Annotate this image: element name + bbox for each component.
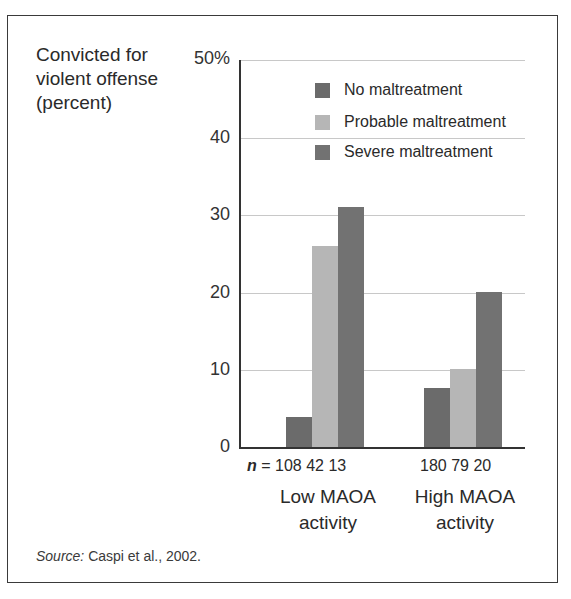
legend-swatch bbox=[315, 83, 330, 98]
legend-item-no-maltreatment: No maltreatment bbox=[315, 81, 462, 99]
bar-low-no-maltreatment bbox=[286, 417, 312, 448]
gridline-30 bbox=[240, 215, 525, 216]
sample-size-low: n = 108 42 13 bbox=[247, 457, 346, 475]
y-axis-label-line: Convicted for bbox=[36, 43, 186, 67]
y-tick-20: 20 bbox=[170, 282, 230, 303]
y-axis bbox=[239, 60, 241, 448]
n-values-low: 108 42 13 bbox=[275, 457, 346, 474]
legend-label: Severe maltreatment bbox=[344, 143, 493, 161]
group-label-line: activity bbox=[400, 510, 530, 536]
x-axis bbox=[239, 447, 525, 449]
group-label-line: activity bbox=[263, 510, 393, 536]
gridline-50 bbox=[240, 60, 525, 61]
y-tick-0: 0 bbox=[170, 436, 230, 457]
n-symbol: n bbox=[247, 457, 257, 474]
group-label-line: Low MAOA bbox=[263, 484, 393, 510]
bar-high-severe-maltreatment bbox=[476, 292, 502, 448]
y-tick-40: 40 bbox=[170, 127, 230, 148]
bar-low-severe-maltreatment bbox=[338, 207, 364, 448]
legend-item-severe-maltreatment: Severe maltreatment bbox=[315, 143, 493, 161]
y-tick-50: 50% bbox=[170, 48, 230, 69]
y-tick-10: 10 bbox=[170, 359, 230, 380]
legend-item-probable-maltreatment: Probable maltreatment bbox=[315, 113, 506, 131]
legend-label: No maltreatment bbox=[344, 81, 462, 99]
source-note: Source: Caspi et al., 2002. bbox=[36, 548, 201, 564]
legend-swatch bbox=[315, 145, 330, 160]
legend-label: Probable maltreatment bbox=[344, 113, 506, 131]
source-label: Source: bbox=[36, 548, 84, 564]
n-equals: = bbox=[257, 457, 275, 474]
bar-low-probable-maltreatment bbox=[312, 246, 338, 448]
bar-high-probable-maltreatment bbox=[450, 369, 476, 448]
group-label-low-maoa: Low MAOA activity bbox=[263, 484, 393, 536]
legend-swatch bbox=[315, 115, 330, 130]
y-tick-30: 30 bbox=[170, 204, 230, 225]
bar-high-no-maltreatment bbox=[424, 388, 450, 448]
y-axis-label-line: (percent) bbox=[36, 91, 186, 115]
n-values-high: 180 79 20 bbox=[420, 457, 491, 474]
group-label-high-maoa: High MAOA activity bbox=[400, 484, 530, 536]
y-axis-label: Convicted for violent offense (percent) bbox=[36, 43, 186, 115]
y-axis-label-line: violent offense bbox=[36, 67, 186, 91]
gridline-40 bbox=[240, 138, 525, 139]
source-text: Caspi et al., 2002. bbox=[84, 548, 201, 564]
group-label-line: High MAOA bbox=[400, 484, 530, 510]
sample-size-high: 180 79 20 bbox=[420, 457, 491, 475]
